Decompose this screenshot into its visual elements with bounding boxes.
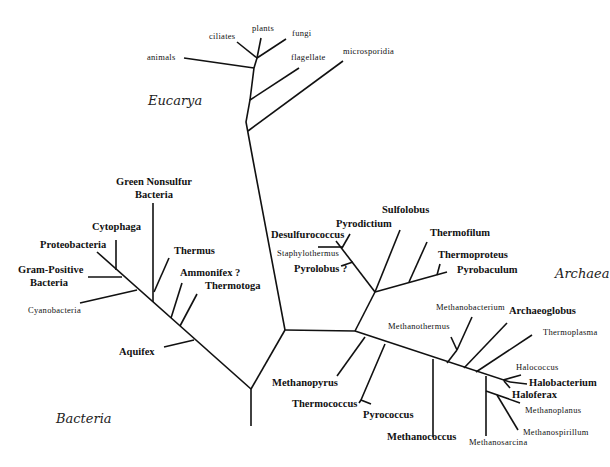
taxon-gram-positive-line1: Gram-Positive <box>18 265 80 276</box>
taxon-desulfurococcus: Desulfurococcus <box>271 230 344 241</box>
taxon-thermococcus: Thermococcus <box>292 399 357 410</box>
branch-methanobacteriales <box>447 350 457 363</box>
branch-flagellate <box>250 68 299 100</box>
taxon-archaeoglobus: Archaeoglobus <box>509 306 576 317</box>
taxon-pyrodictium: Pyrodictium <box>336 219 392 230</box>
taxon-methanopyrus: Methanopyrus <box>272 378 338 389</box>
branch-microsporidia <box>248 61 343 131</box>
taxon-plants: plants <box>252 24 274 33</box>
taxon-thermus: Thermus <box>174 246 215 257</box>
taxon-flagellate: flagellate <box>291 53 326 62</box>
taxon-halobacterium: Halobacterium <box>529 378 597 389</box>
branch-aquifex <box>164 340 194 347</box>
branch-thermus <box>154 258 169 292</box>
taxon-methanospirillum: Methanospirillum <box>523 428 589 437</box>
taxon-microsporidia: microsporidia <box>343 47 394 56</box>
taxon-thermotoga: Thermotoga <box>205 281 260 292</box>
taxon-gram-positive-line2: Bacteria <box>18 278 80 289</box>
branch-halococcus <box>503 375 521 380</box>
taxon-green-nonsulfur-bacteria: Green Nonsulfur Bacteria <box>113 177 195 200</box>
taxon-aquifex: Aquifex <box>119 347 155 358</box>
cren-stem <box>355 292 375 331</box>
taxon-methanothermus: Methanothermus <box>388 322 450 331</box>
taxon-methanobacterium: Methanobacterium <box>436 303 505 312</box>
taxon-halococcus: Halococcus <box>516 363 559 372</box>
branch-methanothermus <box>451 337 457 350</box>
branch-halobacterium <box>510 382 527 384</box>
taxon-green-nonsulfur-line1: Green Nonsulfur <box>113 177 195 188</box>
branch-center-to-archaea <box>285 330 355 331</box>
branch-fungi <box>257 39 286 58</box>
taxon-fungi: fungi <box>292 29 311 38</box>
domain-label-archaea: Archaea <box>555 266 609 281</box>
taxon-animals: animals <box>147 53 176 62</box>
taxon-green-nonsulfur-line2: Bacteria <box>113 190 195 201</box>
branch-thermotoga <box>180 294 197 326</box>
domain-label-eucarya: Eucarya <box>148 93 202 108</box>
taxon-methanoplanus: Methanoplanus <box>525 406 581 415</box>
branch-sulfolobus <box>375 230 400 292</box>
taxon-gram-positive-bacteria: Gram-Positive Bacteria <box>18 265 80 288</box>
taxon-methanococcus: Methanococcus <box>387 432 456 443</box>
taxon-thermofilum: Thermofilum <box>430 228 490 239</box>
taxon-sulfolobus: Sulfolobus <box>382 205 429 216</box>
taxon-pyrococcus: Pyrococcus <box>363 410 414 421</box>
taxon-cyanobacteria: Cyanobacteria <box>28 306 81 315</box>
branch-ciliates <box>237 42 257 58</box>
taxon-methanosarcina: Methanosarcina <box>469 438 527 447</box>
branch-methanopyrus <box>337 337 365 376</box>
taxon-proteobacteria: Proteobacteria <box>40 240 106 251</box>
branch-ammonifex <box>171 283 182 318</box>
branch-cyanobacteria <box>80 290 137 303</box>
domain-label-bacteria: Bacteria <box>56 411 112 426</box>
branch-thermofilum <box>409 242 427 282</box>
taxon-thermoplasma: Thermoplasma <box>543 328 598 337</box>
taxon-pyrobaculum: Pyrobaculum <box>457 265 517 276</box>
taxon-cytophaga: Cytophaga <box>92 222 141 233</box>
taxon-pyrolobus: Pyrolobus ? <box>294 264 347 275</box>
crenarchaeota-clade <box>318 230 447 331</box>
taxon-ammonifex: Ammonifex ? <box>180 268 240 279</box>
branch-archaeoglobus <box>464 323 507 368</box>
taxon-ciliates: ciliates <box>209 32 235 41</box>
branch-methanobacterium <box>457 317 472 350</box>
taxon-thermoproteus: Thermoproteus <box>438 250 508 261</box>
branch-pyrococcus-group <box>361 344 385 404</box>
branch-thermoproteales <box>375 272 447 292</box>
branch-animals <box>184 58 254 68</box>
taxon-haloferax: Haloferax <box>512 390 557 401</box>
taxon-staphylothermus: Staphylothermus <box>277 249 339 258</box>
branch-thermococcus <box>359 400 361 403</box>
